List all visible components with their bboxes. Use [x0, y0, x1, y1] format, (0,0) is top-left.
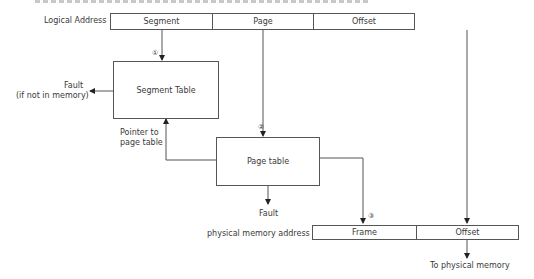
logical-offset-field: Offset: [313, 13, 415, 30]
pointer-label-line1: Pointer to: [120, 128, 159, 137]
page-table-box: Page table: [216, 137, 320, 186]
physical-address-label: physical memory address: [207, 229, 310, 238]
logical-segment-field: Segment: [110, 13, 213, 30]
step-2-marker: ②: [258, 123, 264, 131]
step-3-marker: ③: [368, 212, 374, 220]
physical-frame-field: Frame: [312, 225, 417, 240]
fault-page-label: Fault: [259, 209, 278, 218]
logical-page-field: Page: [212, 13, 314, 30]
fault-segment-note: (if not in memory): [16, 91, 89, 100]
logical-address-label: Logical Address: [44, 16, 106, 25]
physical-offset-field: Offset: [416, 225, 519, 240]
pointer-label-line2: page table: [120, 138, 163, 147]
fault-segment-label: Fault: [64, 81, 83, 90]
step-1-marker: ①: [152, 49, 158, 57]
segment-table-box: Segment Table: [113, 61, 219, 119]
to-physical-memory-label: To physical memory: [430, 261, 510, 270]
